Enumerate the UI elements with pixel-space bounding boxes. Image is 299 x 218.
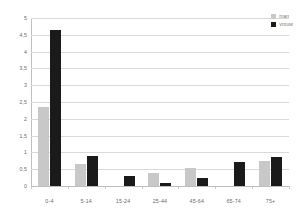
x-axis-tick-label: 5-14	[81, 198, 92, 204]
legend-swatch-icon	[271, 22, 276, 27]
bar-man-75+[interactable]	[259, 161, 270, 186]
x-axis-tick	[289, 186, 290, 189]
bar-vrouw-65-74[interactable]	[234, 162, 245, 186]
bar-vrouw-45-64[interactable]	[197, 178, 208, 186]
legend-item-vrouw[interactable]: vrouw	[271, 21, 293, 27]
bar-man-0-4[interactable]	[38, 107, 49, 186]
legend: manvrouw	[271, 13, 293, 27]
x-axis-tick	[105, 186, 106, 189]
x-axis-tick	[252, 186, 253, 189]
x-axis-ticks	[31, 186, 289, 190]
legend-label: vrouw	[279, 21, 293, 27]
bar-vrouw-15-24[interactable]	[124, 176, 135, 186]
x-axis-tick	[68, 186, 69, 189]
bar-vrouw-0-4[interactable]	[50, 30, 61, 186]
y-axis-tick-label: 2	[24, 116, 27, 122]
x-axis-tick-label: 0-4	[45, 198, 53, 204]
x-axis-tick-label: 25-44	[153, 198, 168, 204]
y-axis-tick-label: 1	[24, 149, 27, 155]
y-axis-tick-label: 3,5	[19, 65, 27, 71]
y-axis-tick-label: 4	[24, 49, 27, 55]
bars-layer	[31, 18, 289, 186]
bar-group	[31, 18, 68, 186]
y-axis-tick-label: 5	[24, 15, 27, 21]
bar-group	[178, 18, 215, 186]
x-axis-tick-label: 75+	[266, 198, 276, 204]
legend-label: man	[279, 13, 289, 19]
y-axis-tick-label: 3	[24, 82, 27, 88]
bar-group	[105, 18, 142, 186]
bar-man-45-64[interactable]	[185, 168, 196, 186]
bar-group	[215, 18, 252, 186]
y-axis-tick-label: 2,5	[19, 99, 27, 105]
bar-group	[252, 18, 289, 186]
x-axis-tick-label: 15-24	[116, 198, 131, 204]
y-axis-tick-label: 0,5	[19, 166, 27, 172]
x-axis-tick	[215, 186, 216, 189]
plot-area: 54,543,532,521,510,50	[31, 18, 289, 186]
x-axis-tick-label: 45-64	[190, 198, 205, 204]
bar-man-25-44[interactable]	[148, 173, 159, 186]
y-axis-tick-label: 1,5	[19, 133, 27, 139]
bar-group	[68, 18, 105, 186]
y-axis-tick-label: 4,5	[19, 32, 27, 38]
y-axis-tick-label: 0	[24, 183, 27, 189]
legend-swatch-icon	[271, 14, 276, 19]
bar-chart: 54,543,532,521,510,50 0-45-1415-2425-444…	[0, 0, 299, 218]
bar-vrouw-75+[interactable]	[271, 157, 282, 186]
bar-vrouw-5-14[interactable]	[87, 156, 98, 186]
bar-group	[142, 18, 179, 186]
x-axis-tick	[142, 186, 143, 189]
x-axis-tick	[178, 186, 179, 189]
x-axis-tick	[31, 186, 32, 189]
legend-item-man[interactable]: man	[271, 13, 293, 19]
x-axis-tick-label: 65-74	[226, 198, 241, 204]
bar-man-5-14[interactable]	[75, 164, 86, 186]
